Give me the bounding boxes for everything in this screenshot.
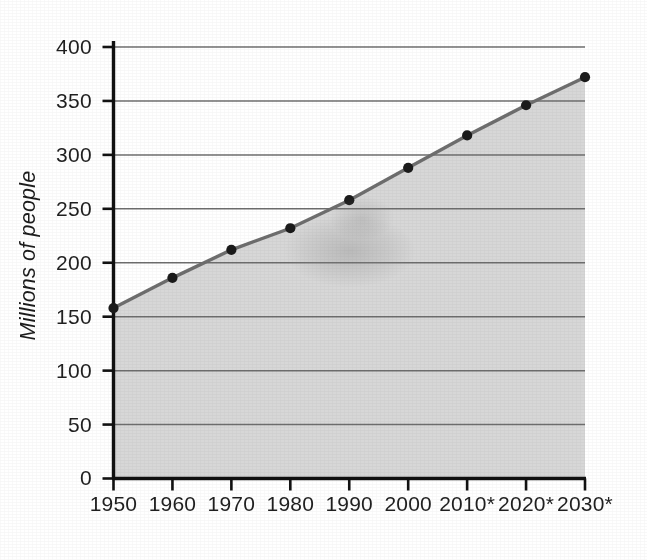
area-fill-group bbox=[114, 77, 586, 478]
data-point-marker[interactable] bbox=[403, 163, 413, 173]
plot-area bbox=[0, 0, 647, 560]
data-point-marker[interactable] bbox=[167, 273, 177, 283]
data-point-marker[interactable] bbox=[521, 100, 531, 110]
data-point-marker[interactable] bbox=[226, 245, 236, 255]
data-point-marker[interactable] bbox=[580, 72, 590, 82]
x-tick-label: 1950 bbox=[90, 492, 138, 516]
x-tick-label: 1970 bbox=[208, 492, 256, 516]
x-tick-label: 1990 bbox=[325, 492, 373, 516]
x-tick-label: 2020* bbox=[498, 492, 554, 516]
x-tick-label: 2010* bbox=[439, 492, 495, 516]
x-axis-ticks bbox=[114, 479, 586, 491]
data-point-marker[interactable] bbox=[462, 130, 472, 140]
population-area-chart: Millions of people 400 350 300 250 200 1… bbox=[0, 0, 647, 560]
area-fill bbox=[114, 77, 586, 478]
data-point-marker[interactable] bbox=[108, 303, 118, 313]
data-point-marker[interactable] bbox=[285, 223, 295, 233]
data-point-marker[interactable] bbox=[344, 195, 354, 205]
x-tick-label: 1980 bbox=[267, 492, 315, 516]
x-tick-label: 2030* bbox=[557, 492, 613, 516]
x-tick-label: 1960 bbox=[149, 492, 197, 516]
x-tick-label: 2000 bbox=[384, 492, 432, 516]
